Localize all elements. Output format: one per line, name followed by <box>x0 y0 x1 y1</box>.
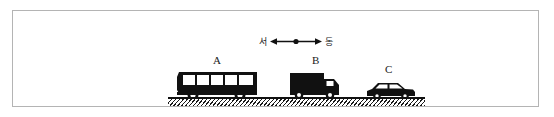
direction-label-west: 서 <box>259 38 267 47</box>
vehicle-label-a: A <box>213 55 221 66</box>
ground-hatching <box>168 99 425 106</box>
vehicle-label-b: B <box>312 55 320 66</box>
direction-label-east: 동 <box>325 38 333 47</box>
center-dot-icon <box>293 39 298 44</box>
hatched-ground-line <box>168 97 425 106</box>
direction-indicator: 서 동 <box>256 33 336 51</box>
vehicle-label-c: C <box>385 64 393 75</box>
figure-frame: 서 동 A B C <box>12 10 539 107</box>
double-headed-arrow-icon <box>270 33 322 51</box>
